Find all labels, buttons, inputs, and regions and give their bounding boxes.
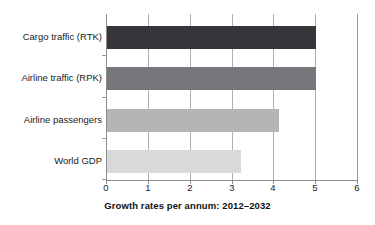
category-label-cargo-traffic: Cargo traffic (RTK) [0, 31, 102, 42]
bar-chart-screenshot: Cargo traffic (RTK) Airline traffic (RPK… [0, 0, 375, 225]
y-tick-mark-1 [102, 55, 106, 56]
x-tick-label-1: 1 [136, 182, 160, 193]
bar-world-gdp [107, 150, 241, 173]
bar-cargo-traffic [107, 26, 316, 49]
x-tick-label-4: 4 [261, 182, 285, 193]
x-tick-label-0: 0 [94, 182, 118, 193]
category-axis-labels: Cargo traffic (RTK) Airline traffic (RPK… [0, 14, 102, 180]
x-axis-tick-labels: 0 1 2 3 4 5 6 [106, 182, 366, 196]
x-axis-title: Growth rates per annum: 2012–2032 [0, 200, 375, 211]
bar-airline-traffic [107, 67, 316, 90]
y-tick-mark-2 [102, 97, 106, 98]
y-tick-mark-3 [102, 138, 106, 139]
y-tick-mark-4 [102, 179, 106, 180]
gridline-6 [357, 14, 358, 180]
bar-airline-passengers [107, 109, 279, 132]
category-label-airline-traffic: Airline traffic (RPK) [0, 72, 102, 83]
plot-area [106, 14, 357, 180]
category-label-airline-passengers: Airline passengers [0, 114, 102, 125]
category-label-world-gdp: World GDP [0, 155, 102, 166]
x-tick-label-3: 3 [220, 182, 244, 193]
x-tick-label-6: 6 [345, 182, 369, 193]
x-tick-label-2: 2 [178, 182, 202, 193]
x-tick-label-5: 5 [303, 182, 327, 193]
